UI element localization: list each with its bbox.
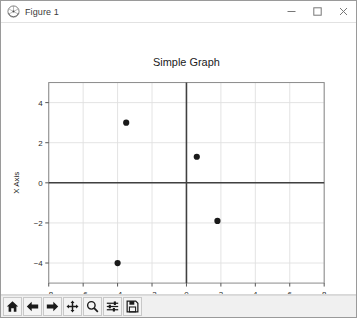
magnifier-icon [86, 300, 99, 313]
window-title: Figure 1 [25, 7, 59, 17]
close-icon [338, 6, 349, 17]
figure-window: Figure 1 Simple Graph−8−6−4−202468420−2−… [0, 0, 357, 318]
data-point [114, 260, 120, 266]
minimize-button[interactable] [278, 1, 304, 22]
y-axis-label: X Axis [12, 172, 21, 194]
pan-button[interactable] [63, 297, 82, 316]
home-button[interactable] [3, 297, 22, 316]
x-tick-label: 2 [219, 290, 224, 294]
arrow-right-icon [46, 300, 59, 313]
configure-subplots-button[interactable] [103, 297, 122, 316]
y-tick-label: −4 [34, 259, 44, 268]
data-point [123, 120, 129, 126]
forward-button[interactable] [43, 297, 62, 316]
back-button[interactable] [23, 297, 42, 316]
zoom-button[interactable] [83, 297, 102, 316]
save-button[interactable] [123, 297, 142, 316]
y-tick-label: 0 [38, 179, 43, 188]
x-tick-label: 6 [288, 290, 293, 294]
y-tick-label: −2 [34, 219, 44, 228]
navigation-toolbar [1, 295, 356, 317]
x-tick-label: 4 [253, 290, 258, 294]
sliders-icon [106, 300, 119, 313]
close-button[interactable] [330, 1, 356, 22]
x-tick-label: −6 [79, 290, 89, 294]
x-tick-label: −2 [147, 290, 157, 294]
title-bar: Figure 1 [1, 1, 356, 23]
minimize-icon [286, 6, 297, 17]
data-point [214, 218, 220, 224]
y-tick-label: 2 [38, 139, 43, 148]
y-tick-label: 4 [38, 99, 43, 108]
x-tick-label: 8 [322, 290, 327, 294]
x-tick-label: −4 [113, 290, 123, 294]
arrow-left-icon [26, 300, 39, 313]
data-point [194, 154, 200, 160]
home-icon [6, 300, 19, 313]
x-tick-label: 0 [184, 290, 189, 294]
chart-title: Simple Graph [153, 56, 220, 68]
maximize-button[interactable] [304, 1, 330, 22]
floppy-icon [126, 300, 139, 313]
x-tick-label: −8 [44, 290, 54, 294]
move-icon [66, 300, 79, 313]
scatter-plot: Simple Graph−8−6−4−202468420−2−4Y AxisX … [1, 23, 356, 294]
plot-svg: Simple Graph−8−6−4−202468420−2−4Y AxisX … [1, 23, 356, 294]
maximize-icon [312, 6, 323, 17]
figure-canvas[interactable]: Simple Graph−8−6−4−202468420−2−4Y AxisX … [1, 23, 356, 295]
matplotlib-icon [7, 5, 20, 18]
